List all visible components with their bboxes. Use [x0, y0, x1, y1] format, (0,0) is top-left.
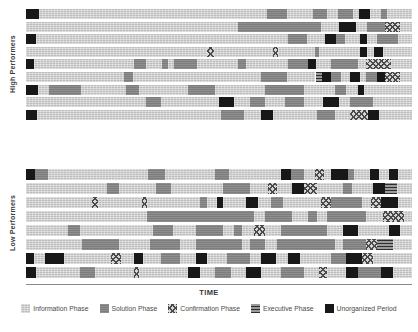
phase-segment-unorg [308, 59, 316, 69]
phase-segment-info [400, 72, 412, 82]
phase-segment-sol [196, 239, 242, 250]
timeline-row [26, 183, 412, 194]
phase-segment-info [341, 72, 351, 82]
phase-segment-info [304, 97, 323, 107]
phase-segment-info [250, 183, 268, 194]
phase-segment-unorg [45, 253, 64, 264]
phase-segment-info [246, 59, 288, 69]
legend-item-conf[interactable]: Confirmation Phase [168, 304, 240, 313]
phase-segment-unorg [343, 225, 358, 236]
phase-segment-info [200, 267, 215, 278]
phase-segment-info [143, 253, 161, 264]
phase-segment-info [304, 267, 319, 278]
phase-segment-info [354, 169, 369, 180]
phase-segment-unorg [370, 169, 380, 180]
phase-segment-info [215, 85, 265, 95]
phase-segment-sol [366, 72, 378, 82]
phase-segment-info [26, 97, 146, 107]
group-label-high-performers: High Performers [8, 9, 18, 120]
phase-segment-info [39, 9, 267, 19]
phase-segment-info [335, 110, 350, 120]
phase-segment-sol [338, 9, 353, 19]
phase-segment-sol [200, 197, 208, 208]
phase-segment-info [229, 169, 281, 180]
phase-segment-info [391, 59, 412, 69]
phase-segment-unorg [374, 47, 382, 57]
phase-segment-sol [223, 183, 250, 194]
phase-segment-sol [277, 239, 335, 250]
legend-item-exec[interactable]: Executive Phase [251, 304, 314, 313]
phase-segment-info [207, 197, 216, 208]
phase-segment-unorg [373, 183, 385, 194]
phase-segment-conf [385, 22, 400, 32]
phase-segment-sol [146, 97, 161, 107]
phase-segment-info [370, 9, 381, 19]
legend-swatch-sol-icon [100, 304, 109, 313]
phase-segment-info [173, 225, 196, 236]
phase-segment-info [398, 169, 412, 180]
phase-segment-unorg [368, 110, 380, 120]
phase-segment-info [300, 253, 331, 264]
x-axis-line [26, 284, 412, 285]
phase-segment-sol [281, 225, 327, 236]
phase-segment-info [38, 85, 50, 95]
phase-segment-sol [35, 169, 47, 180]
timeline-row [26, 225, 412, 236]
phase-segment-info [379, 110, 412, 120]
phase-segment-info [139, 85, 188, 95]
phase-segment-unorg [26, 59, 34, 69]
timeline-row [26, 9, 412, 19]
phase-segment-sol [367, 22, 385, 32]
timeline-row [26, 253, 412, 264]
phase-segment-sol [265, 211, 292, 222]
phase-segment-unorg [188, 267, 200, 278]
phase-segment-info [26, 225, 68, 236]
phase-segment-exec [377, 239, 392, 250]
timeline-row [26, 239, 412, 250]
timeline-row [26, 169, 412, 180]
phase-segment-conf [385, 72, 400, 82]
phase-segment-sol [147, 211, 254, 222]
phase-segment-info [292, 211, 307, 222]
phase-segment-info [265, 239, 277, 250]
phase-segment-info [119, 183, 157, 194]
phase-segment-sol [327, 211, 366, 222]
phase-segment-unorg [261, 110, 273, 120]
phase-segment-info [327, 267, 346, 278]
phase-segment-info [352, 183, 374, 194]
legend-label: Solution Phase [112, 305, 158, 312]
phase-segment-unorg [261, 253, 276, 264]
legend-item-sol[interactable]: Solution Phase [100, 304, 158, 313]
phase-segment-info [244, 110, 261, 120]
timeline-row [26, 267, 412, 278]
legend-item-unorg[interactable]: Unorganized Period [325, 304, 397, 313]
legend-swatch-unorg-icon [325, 304, 334, 313]
legend-item-info[interactable]: Information Phase [21, 304, 88, 313]
phase-segment-info [387, 9, 412, 19]
phase-segment-sol [331, 72, 341, 82]
phase-segment-sol [153, 225, 172, 236]
phase-segment-exec [316, 72, 323, 82]
phase-segment-sol [82, 239, 119, 250]
timeline-row [26, 22, 412, 32]
timeline-chart: High Performers Low Performers TIME Info… [0, 0, 418, 332]
phase-segment-info [180, 253, 195, 264]
phase-segment-conf [268, 183, 277, 194]
legend: Information PhaseSolution PhaseConfirmat… [0, 304, 418, 313]
phase-segment-unorg [377, 72, 385, 82]
phase-segment-info [133, 72, 261, 82]
phase-segment-sol [80, 267, 95, 278]
phase-segment-sol [227, 253, 250, 264]
phase-segment-info [121, 253, 134, 264]
phase-segment-info [119, 239, 150, 250]
phase-segment-unorg [292, 183, 304, 194]
phase-segment-conf [366, 59, 390, 69]
phase-segment-sol [150, 239, 181, 250]
phase-segment-conf [254, 225, 266, 236]
phase-segment-unorg [246, 267, 261, 278]
phase-segment-info [367, 47, 374, 57]
phase-segment-unorg [26, 85, 38, 95]
phase-segment-info [373, 97, 412, 107]
phase-segment-sol [358, 267, 381, 278]
phase-segment-info [261, 267, 280, 278]
